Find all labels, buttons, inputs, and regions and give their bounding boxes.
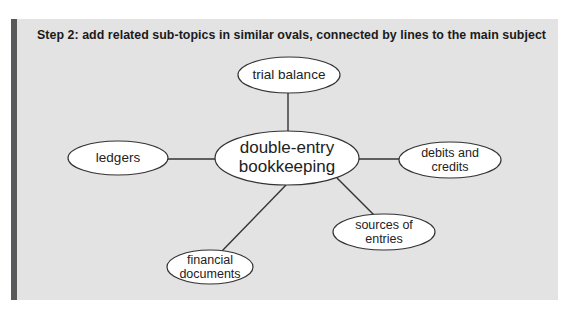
label-ledgers: ledgers [68,141,168,175]
label-main-subject: double-entry bookkeeping [215,131,359,185]
connector-financial-documents [222,185,286,251]
label-sources-entries: sources of entries [333,214,435,250]
label-trial-balance: trial balance [238,57,340,93]
label-financial-documents: financial documents [167,250,253,284]
label-debits-credits: debits and credits [399,142,501,178]
